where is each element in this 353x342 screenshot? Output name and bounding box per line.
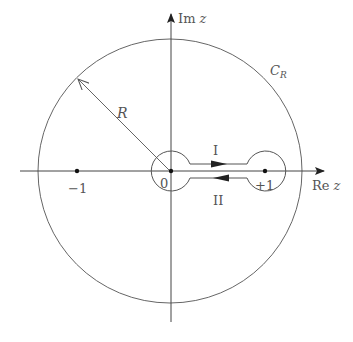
point-zero-label: 0 bbox=[160, 176, 168, 191]
point-plus-one bbox=[263, 169, 267, 173]
arrow-path-i-icon bbox=[211, 161, 227, 168]
imag-axis-label: Imz bbox=[178, 11, 206, 26]
arrow-path-ii-icon bbox=[213, 175, 229, 182]
radius-label: R bbox=[116, 105, 128, 121]
point-zero bbox=[169, 169, 173, 173]
point-minus-one-label: −1 bbox=[68, 181, 87, 196]
path-i-label: I bbox=[213, 143, 218, 158]
path-ii-label: II bbox=[213, 193, 223, 208]
point-plus-one-label: +1 bbox=[255, 178, 274, 193]
real-axis-label: Rez bbox=[312, 178, 340, 193]
point-minus-one bbox=[75, 169, 79, 173]
outer-circle-label: CR bbox=[270, 63, 287, 80]
contour-diagram: Imz Rez CR R −1 0 +1 I II bbox=[0, 0, 353, 342]
